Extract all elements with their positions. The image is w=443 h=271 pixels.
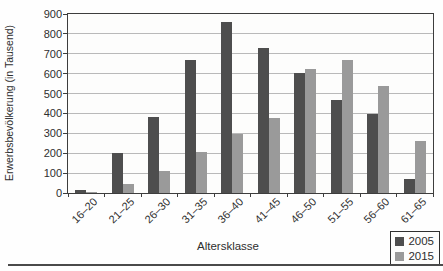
y-tick-mark-900 <box>63 14 67 15</box>
x-tick-mark-3 <box>177 193 178 197</box>
x-tick-mark-9 <box>396 193 397 197</box>
legend-swatch-2015 <box>395 252 404 261</box>
bar-2015-21–25 <box>123 184 134 193</box>
bar-2005-51–55 <box>331 100 342 193</box>
x-axis-title: Altersklasse <box>197 240 259 252</box>
chart-figure: Erwerbsbevölkerung (in Tausend) 01002003… <box>0 0 443 271</box>
x-tick-label-51–55: 51–55 <box>326 196 355 225</box>
x-tick-mark-0 <box>68 193 69 197</box>
legend: 20052015 <box>390 231 440 266</box>
plot-area <box>67 13 434 194</box>
y-tick-label-100: 100 <box>44 167 62 179</box>
bar-2005-31–35 <box>185 60 196 193</box>
y-tick-mark-500 <box>63 93 67 94</box>
x-tick-label-16–20: 16–20 <box>70 196 99 225</box>
bar-2015-46–50 <box>305 69 316 193</box>
x-tick-label-41–45: 41–45 <box>253 196 282 225</box>
bar-2015-31–35 <box>196 152 207 193</box>
x-tick-label-21–25: 21–25 <box>107 196 136 225</box>
x-tick-mark-6 <box>287 193 288 197</box>
gridline-600 <box>68 73 433 74</box>
bar-2015-26–30 <box>159 171 170 193</box>
bar-2005-46–50 <box>294 73 305 193</box>
x-tick-label-61–65: 61–65 <box>399 196 428 225</box>
x-tick-mark-8 <box>360 193 361 197</box>
bar-2015-51–55 <box>342 60 353 193</box>
y-tick-label-700: 700 <box>44 48 62 60</box>
legend-label-2015: 2015 <box>408 250 434 262</box>
gridline-700 <box>68 53 433 54</box>
x-tick-label-26–30: 26–30 <box>143 196 172 225</box>
bar-2015-36–40 <box>232 134 243 193</box>
y-tick-label-400: 400 <box>44 107 62 119</box>
legend-row-2015: 2015 <box>395 249 434 263</box>
bar-2015-61–65 <box>415 141 426 193</box>
y-tick-label-500: 500 <box>44 88 62 100</box>
x-tick-label-56–60: 56–60 <box>362 196 391 225</box>
bar-2005-21–25 <box>112 153 123 193</box>
x-tick-mark-2 <box>141 193 142 197</box>
x-tick-mark-10 <box>433 193 434 197</box>
y-tick-mark-700 <box>63 53 67 54</box>
bar-2015-16–20 <box>86 192 97 193</box>
y-tick-mark-200 <box>63 153 67 154</box>
bar-2005-61–65 <box>404 179 415 193</box>
y-tick-label-900: 900 <box>44 8 62 20</box>
y-tick-mark-400 <box>63 113 67 114</box>
bottom-rule-divider <box>8 264 443 266</box>
bar-2005-41–45 <box>258 48 269 193</box>
x-tick-label-31–35: 31–35 <box>180 196 209 225</box>
y-tick-mark-800 <box>63 33 67 34</box>
bar-2015-56–60 <box>378 86 389 193</box>
bar-2005-56–60 <box>367 114 378 193</box>
legend-label-2005: 2005 <box>408 235 434 247</box>
x-tick-mark-7 <box>323 193 324 197</box>
x-tick-mark-1 <box>104 193 105 197</box>
bar-2015-41–45 <box>269 118 280 193</box>
y-tick-label-600: 600 <box>44 68 62 80</box>
y-tick-mark-0 <box>63 193 67 194</box>
legend-swatch-2005 <box>395 237 404 246</box>
bar-2005-36–40 <box>221 22 232 193</box>
legend-row-2005: 2005 <box>395 234 434 248</box>
y-tick-label-200: 200 <box>44 147 62 159</box>
y-tick-label-800: 800 <box>44 28 62 40</box>
gridline-800 <box>68 33 433 34</box>
x-tick-label-36–40: 36–40 <box>216 196 245 225</box>
y-tick-mark-100 <box>63 173 67 174</box>
x-tick-mark-4 <box>214 193 215 197</box>
x-tick-mark-5 <box>250 193 251 197</box>
y-axis-title: Erwerbsbevölkerung (in Tausend) <box>3 25 15 181</box>
y-tick-mark-600 <box>63 73 67 74</box>
y-tick-mark-300 <box>63 133 67 134</box>
y-tick-label-300: 300 <box>44 127 62 139</box>
bar-2005-16–20 <box>75 190 86 193</box>
x-tick-label-46–50: 46–50 <box>289 196 318 225</box>
y-tick-label-0: 0 <box>56 187 62 199</box>
bar-2005-26–30 <box>148 117 159 193</box>
